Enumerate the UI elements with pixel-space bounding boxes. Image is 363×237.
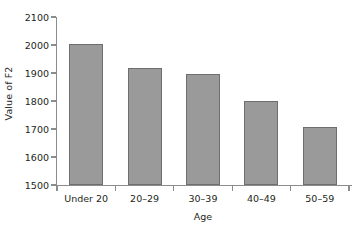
x-axis-tick <box>348 186 349 191</box>
y-axis-tick-label: 2000 <box>19 40 49 51</box>
x-axis-tick <box>115 186 116 191</box>
bar <box>128 68 162 185</box>
y-axis-tick <box>51 16 56 17</box>
x-axis-tick <box>290 186 291 191</box>
x-axis-category-label: 40–49 <box>232 193 290 204</box>
x-axis-tick <box>232 186 233 191</box>
x-axis-category-label: 20–29 <box>115 193 173 204</box>
bar <box>244 101 278 185</box>
y-axis-title-text: Value of F2 <box>4 66 15 120</box>
bar-chart: Value of F2 1500160017001800190020002100… <box>0 0 363 237</box>
bar <box>303 127 337 185</box>
y-axis-tick-label: 1800 <box>19 96 49 107</box>
y-axis-tick <box>51 100 56 101</box>
x-axis-title: Age <box>57 211 349 222</box>
y-axis-tick-label: 1600 <box>19 152 49 163</box>
y-axis-tick <box>51 128 56 129</box>
x-axis-category-label: Under 20 <box>57 193 115 204</box>
y-axis-title: Value of F2 <box>0 0 18 186</box>
x-axis-category-label: 30–39 <box>174 193 232 204</box>
y-axis-line <box>56 17 57 186</box>
x-axis-line <box>56 185 352 186</box>
bar <box>69 44 103 185</box>
y-axis-tick-label: 1700 <box>19 124 49 135</box>
x-axis-tick <box>173 186 174 191</box>
y-axis-tick <box>51 72 56 73</box>
y-axis-tick <box>51 156 56 157</box>
y-axis-tick-label: 1500 <box>19 180 49 191</box>
x-axis-tick <box>56 186 57 191</box>
y-axis-tick-label: 1900 <box>19 68 49 79</box>
y-axis-tick <box>51 184 56 185</box>
bar <box>186 74 220 185</box>
y-axis-tick <box>51 44 56 45</box>
x-axis-category-label: 50–59 <box>291 193 349 204</box>
y-axis-tick-label: 2100 <box>19 12 49 23</box>
